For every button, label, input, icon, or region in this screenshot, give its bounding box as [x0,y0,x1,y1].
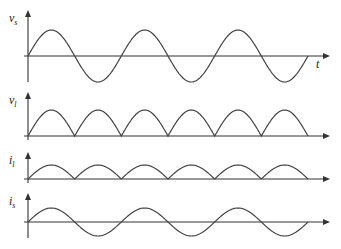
x-axis-arrow-icon [323,219,330,225]
waveform-diagram: vstvlilis [0,0,341,249]
waveform-il [28,165,308,179]
waveform-vl [28,110,308,136]
label-vs: vs [9,11,17,27]
x-axis-arrow-icon [323,53,330,59]
label-vl: vl [9,93,17,109]
y-axis-arrow-icon [25,10,31,17]
y-axis-arrow-icon [25,193,31,200]
x-axis-arrow-icon [323,176,330,182]
panel-vs: vst [9,10,330,82]
x-axis-arrow-icon [323,133,330,139]
label-il: il [9,153,15,169]
panel-il: il [9,152,330,183]
panel-vl: vl [9,92,330,140]
label-is: is [9,194,15,210]
time-axis-label: t [316,57,320,71]
y-axis-arrow-icon [25,92,31,99]
y-axis-arrow-icon [25,152,31,159]
panel-is: is [9,193,330,238]
